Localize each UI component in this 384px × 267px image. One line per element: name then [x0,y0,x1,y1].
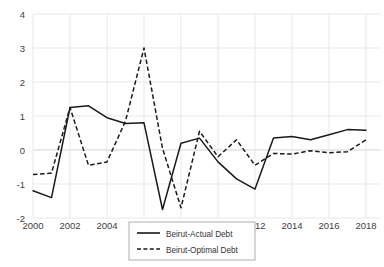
x-tick-2018: 2018 [355,220,376,231]
series-line-beirut-actual-debt [33,106,366,210]
x-tick-2014: 2014 [281,220,302,231]
y-tick-1: 1 [20,111,25,122]
chart-svg: -2-101234 200020022004200620082010201220… [0,0,384,267]
y-axis-tick-labels: -2-101234 [17,9,25,224]
line-chart: -2-101234 200020022004200620082010201220… [0,0,384,267]
x-tick-2002: 2002 [59,220,80,231]
y-tick-2: 2 [20,77,25,88]
legend-label-beirut-optimal-debt: Beirut-Optimal Debt [166,246,239,255]
y-tick-0: 0 [20,145,25,156]
x-tick-2000: 2000 [22,220,43,231]
y-tick--1: -1 [17,179,25,190]
x-tick-2016: 2016 [318,220,339,231]
legend-label-beirut-actual-debt: Beirut-Actual Debt [166,230,233,239]
y-tick-4: 4 [20,9,25,20]
x-tick-2004: 2004 [96,220,117,231]
y-tick-3: 3 [20,43,25,54]
legend: Beirut-Actual Debt Beirut-Optimal Debt [129,222,255,260]
